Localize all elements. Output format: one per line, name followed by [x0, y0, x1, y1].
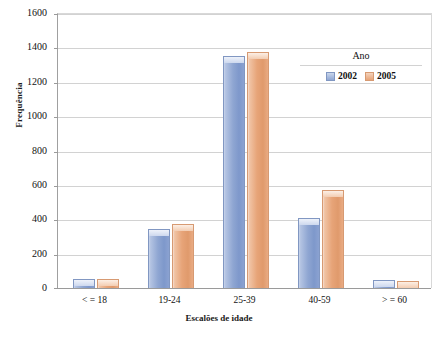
x-tick-label: 40-59 — [280, 295, 360, 305]
y-tick-label: 0 — [0, 283, 47, 293]
axis-baseline — [58, 288, 431, 289]
legend-label: 2002 — [338, 71, 357, 81]
y-tick-mark — [54, 288, 58, 289]
legend-divider — [300, 65, 422, 66]
y-axis-title: Frequência — [14, 50, 24, 160]
bar-2002-40-59[interactable] — [298, 218, 320, 288]
x-tick-label: < = 18 — [55, 295, 135, 305]
y-tick-label: 800 — [0, 146, 47, 156]
x-tick-label: > = 60 — [355, 295, 435, 305]
legend: Ano 20022005 — [300, 46, 422, 86]
x-tick-label: 19-24 — [130, 295, 210, 305]
bar-2002-19-24[interactable] — [148, 229, 170, 288]
y-tick-label: 600 — [0, 180, 47, 190]
bar-2002-<=18[interactable] — [73, 279, 95, 288]
bar-group — [73, 14, 119, 288]
bar-2005->=60[interactable] — [397, 281, 419, 288]
legend-swatch-icon-2005 — [365, 72, 374, 81]
legend-entry-2002[interactable]: 2002 — [326, 71, 357, 81]
x-tick-label: 25-39 — [205, 295, 285, 305]
legend-label: 2005 — [377, 71, 396, 81]
bar-2005-25-39[interactable] — [247, 52, 269, 288]
y-tick-label: 1000 — [0, 111, 47, 121]
legend-swatch-icon-2002 — [326, 72, 335, 81]
legend-entry-2005[interactable]: 2005 — [365, 71, 396, 81]
bar-group — [223, 14, 269, 288]
y-tick-label: 200 — [0, 249, 47, 259]
x-axis-title: Escalões de idade — [0, 313, 438, 323]
bar-2002-25-39[interactable] — [223, 56, 245, 288]
bar-group — [148, 14, 194, 288]
bar-2002->=60[interactable] — [373, 280, 395, 288]
y-tick-label: 1600 — [0, 8, 47, 18]
bar-2005-19-24[interactable] — [172, 224, 194, 288]
y-tick-label: 1200 — [0, 77, 47, 87]
bar-2005-<=18[interactable] — [97, 279, 119, 288]
y-tick-label: 1400 — [0, 42, 47, 52]
y-tick-label: 400 — [0, 214, 47, 224]
bar-2005-40-59[interactable] — [322, 190, 344, 288]
bar-chart: Frequência 02004006008001000120014001600… — [0, 0, 438, 338]
legend-entries: 20022005 — [300, 71, 422, 81]
legend-title: Ano — [300, 50, 422, 61]
